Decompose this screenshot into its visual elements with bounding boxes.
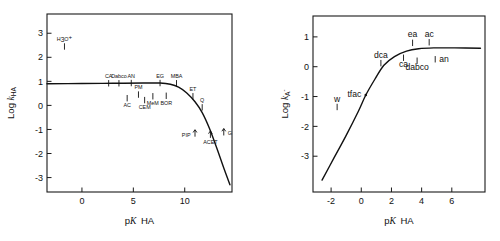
y-tick-label: 0 bbox=[38, 101, 43, 111]
data-point: PM bbox=[134, 84, 143, 98]
point-label: Q bbox=[200, 97, 204, 103]
data-point: MeM bbox=[147, 93, 159, 106]
data-point: H3O+ bbox=[57, 33, 73, 50]
data-point: Dabco bbox=[111, 73, 127, 87]
data-point: Q bbox=[200, 97, 204, 111]
point-label: PIP bbox=[182, 132, 191, 138]
y-axis-title: Log kHA bbox=[5, 86, 17, 118]
data-point: G bbox=[222, 128, 232, 136]
svg-text:Log kHA: Log kHA bbox=[5, 86, 17, 118]
y-tick-label: 3 bbox=[38, 28, 43, 38]
y-tick-label: -2 bbox=[35, 149, 43, 159]
x-tick-label: 0 bbox=[79, 196, 84, 206]
left-brønsted-plot: 05103210-1-2-3H3O+CADabcoANACPMCEMMeMEGB… bbox=[0, 0, 500, 241]
point-label: H3O+ bbox=[57, 33, 73, 44]
point-label: EG bbox=[156, 73, 164, 79]
y-tick-label: 1 bbox=[38, 77, 43, 87]
point-label: AN bbox=[128, 73, 136, 79]
plot-frame bbox=[47, 14, 232, 192]
y-tick-label: 2 bbox=[38, 52, 43, 62]
data-point: ACET bbox=[203, 131, 218, 146]
x-axis-title: pK HA bbox=[125, 215, 155, 226]
point-label: MBA bbox=[171, 73, 183, 79]
data-point: BOR bbox=[160, 93, 172, 106]
point-label: BOR bbox=[160, 100, 172, 106]
data-point: PIP bbox=[182, 130, 197, 138]
point-label: Dabco bbox=[111, 73, 127, 79]
x-tick-label: 5 bbox=[131, 196, 136, 206]
point-label: MeM bbox=[147, 100, 159, 106]
point-label: PM bbox=[134, 84, 143, 90]
point-label: ACET bbox=[203, 139, 218, 145]
data-point: EG bbox=[156, 73, 164, 87]
y-tick-label: -1 bbox=[35, 125, 43, 135]
point-label: ET bbox=[189, 86, 197, 92]
x-tick-label: 10 bbox=[180, 196, 190, 206]
point-label: AC bbox=[123, 102, 131, 108]
y-tick-label: -3 bbox=[35, 173, 43, 183]
figure-root: 05103210-1-2-3H3O+CADabcoANACPMCEMMeMEGB… bbox=[0, 0, 500, 241]
data-point: AC bbox=[123, 95, 131, 108]
point-label: G bbox=[228, 130, 232, 136]
